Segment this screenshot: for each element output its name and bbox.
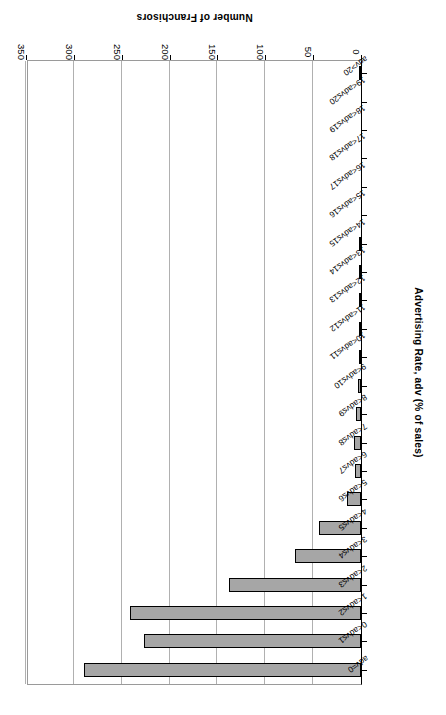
gridline — [25, 61, 26, 684]
category-axis-tick — [362, 443, 367, 444]
value-axis-title: Number of Franchisors — [27, 12, 362, 23]
bar-row — [84, 656, 361, 684]
category-axis-tick — [362, 329, 367, 330]
category-axis-tick — [362, 244, 367, 245]
category-axis-tick — [362, 585, 367, 586]
value-axis-tick-label: 200 — [160, 44, 171, 60]
category-axis: adv=00<adv≤11<adv≤22<adv≤33<adv≤44<adv≤5… — [361, 60, 362, 685]
category-axis-tick — [362, 613, 367, 614]
bar — [144, 634, 361, 648]
bar — [84, 663, 361, 677]
bar — [130, 606, 361, 620]
value-axis-tick-label: 300 — [64, 44, 75, 60]
category-axis-tick — [362, 471, 367, 472]
bar-series — [28, 61, 361, 684]
category-axis-tick — [362, 215, 367, 216]
value-axis-tick-label: 250 — [112, 44, 123, 60]
bar-row — [130, 599, 361, 627]
value-axis-tick-label: 0 — [351, 49, 362, 54]
category-axis-title: Advertising Rate, adv (% of sales) — [408, 60, 424, 685]
value-axis-tick-label: 150 — [207, 44, 218, 60]
category-axis-tick — [362, 300, 367, 301]
category-axis-tick — [362, 357, 367, 358]
category-axis-tick — [362, 641, 367, 642]
category-axis-tick — [362, 499, 367, 500]
category-axis-tick — [362, 528, 367, 529]
bar-chart-figure: 050100150200250300350 adv=00<adv≤11<adv≤… — [0, 0, 446, 715]
value-axis: 050100150200250300350 — [27, 59, 362, 60]
category-axis-tick — [362, 130, 367, 131]
value-axis-tick-label: 100 — [255, 44, 266, 60]
value-axis-tick-label: 50 — [303, 47, 314, 58]
bar-row — [144, 627, 361, 655]
category-axis-tick — [362, 386, 367, 387]
plot-area — [27, 60, 362, 685]
category-axis-tick — [362, 272, 367, 273]
category-axis-tick — [362, 556, 367, 557]
chart-figure-rotated: 050100150200250300350 adv=00<adv≤11<adv≤… — [0, 0, 446, 715]
category-axis-tick — [362, 414, 367, 415]
category-axis-tick — [362, 158, 367, 159]
category-axis-tick — [362, 187, 367, 188]
category-axis-tick — [362, 102, 367, 103]
value-axis-tick-label: 350 — [16, 44, 27, 60]
category-axis-tick — [362, 670, 367, 671]
category-axis-tick — [362, 73, 367, 74]
